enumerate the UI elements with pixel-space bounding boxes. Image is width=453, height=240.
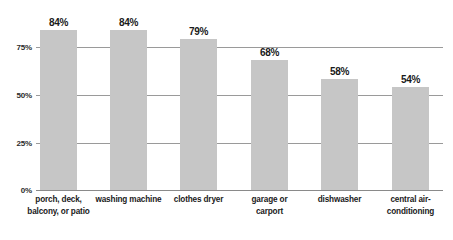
bar[interactable] [251, 60, 288, 190]
bar-value-label: 84% [49, 17, 68, 28]
bar-value-label: 84% [119, 17, 138, 28]
bar-group-garage-or-carport[interactable]: 68% [251, 60, 288, 190]
bar-group-central-air-conditioning[interactable]: 54% [392, 87, 429, 190]
bar-group-washing-machine[interactable]: 84% [110, 30, 147, 190]
category-label-line: balcony, or patio [13, 206, 104, 218]
category-label-central-air-conditioning: central air- conditioning [365, 194, 453, 217]
bar[interactable] [40, 30, 77, 190]
bar-chart: 75% 50% 25% 0% 84% 84% 79% 68% [0, 0, 453, 240]
bar[interactable] [321, 79, 358, 190]
bar-value-label: 68% [260, 47, 279, 58]
category-label-line: conditioning [365, 206, 453, 218]
bar-group-porch-deck-balcony-or-patio[interactable]: 84% [40, 30, 77, 190]
bar-value-label: 54% [401, 74, 420, 85]
bar-group-dishwasher[interactable]: 58% [321, 79, 358, 190]
bar-value-label: 58% [330, 66, 349, 77]
bar[interactable] [392, 87, 429, 190]
category-label-line: central air- [365, 194, 453, 206]
bar[interactable] [110, 30, 147, 190]
bar[interactable] [180, 39, 217, 190]
bar-value-label: 79% [189, 26, 208, 37]
category-label-line: carport [224, 206, 315, 218]
bar-group-clothes-dryer[interactable]: 79% [180, 39, 217, 190]
